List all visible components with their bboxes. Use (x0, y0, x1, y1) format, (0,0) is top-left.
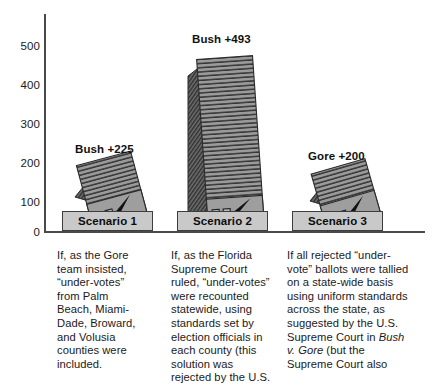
bar-label-scenario-1: Bush +225 (75, 143, 134, 155)
caption-scenario-3: If all rejected “under-vote” ballots wer… (287, 249, 409, 371)
bar-label-scenario-3: Gore +200 (308, 150, 365, 162)
bar-label-scenario-2: Bush +493 (192, 33, 251, 45)
category-box-scenario-1[interactable]: Scenario 1 (62, 211, 153, 231)
caption-scenario-1: If, as the Gore team insisted, “under-vo… (57, 249, 141, 371)
category-box-scenario-2[interactable]: Scenario 2 (177, 211, 268, 231)
caption-scenario-3-part1: If all rejected “under-vote” ballots wer… (287, 249, 408, 343)
caption-columns: If, as the Gore team insisted, “under-vo… (0, 249, 435, 371)
bar-chart: 500 400 300 200 100 0 (0, 0, 435, 248)
category-box-scenario-3[interactable]: Scenario 3 (292, 211, 383, 231)
bar-scenario-2 (188, 56, 264, 226)
caption-scenario-2: If, as the Florida Supreme Court ruled, … (171, 249, 275, 385)
